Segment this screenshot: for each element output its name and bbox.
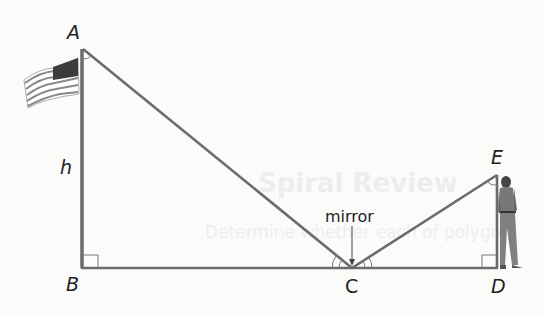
point-label-C: C	[345, 277, 358, 296]
angle-mark-A	[83, 56, 91, 59]
point-label-E: E	[491, 148, 503, 167]
point-label-D: D	[491, 277, 506, 296]
right-angle-B	[84, 255, 98, 267]
right-angle-D	[482, 255, 496, 267]
person-icon	[498, 176, 523, 269]
mirror-label: mirror	[325, 209, 374, 225]
height-label: h	[60, 158, 72, 177]
segment-AC	[83, 49, 352, 268]
point-label-A: A	[67, 23, 80, 42]
flag-icon	[24, 58, 79, 108]
mirror-arrow-icon	[349, 226, 355, 266]
point-label-B: B	[66, 275, 79, 294]
mirror-diagram	[0, 0, 543, 316]
